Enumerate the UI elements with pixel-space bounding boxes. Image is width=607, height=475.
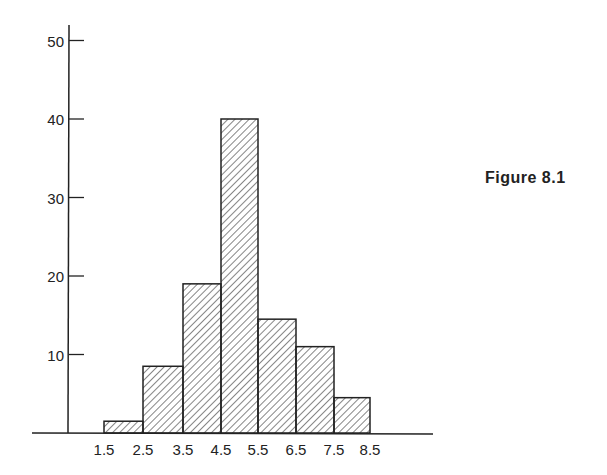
figure-caption: Figure 8.1: [485, 169, 566, 187]
x-tick-label: 3.5: [173, 441, 194, 458]
y-axis-ticks: 1020304050: [47, 33, 84, 364]
histogram-bars: [104, 119, 370, 433]
y-tick-label: 40: [47, 111, 64, 128]
x-axis: [32, 433, 433, 434]
x-tick-label: 1.5: [94, 441, 115, 458]
histogram-bar: [258, 319, 296, 433]
x-axis-tick-labels: 1.52.53.54.55.56.57.58.5: [94, 441, 381, 458]
histogram-bar: [104, 421, 143, 433]
histogram-chart: 1020304050 1.52.53.54.55.56.57.58.5: [0, 0, 607, 475]
y-tick-label: 20: [47, 268, 64, 285]
y-axis: [68, 25, 69, 433]
x-tick-label: 8.5: [360, 441, 381, 458]
x-tick-label: 2.5: [133, 441, 154, 458]
y-tick-label: 10: [47, 347, 64, 364]
histogram-bar: [296, 347, 334, 433]
y-tick-label: 50: [47, 33, 64, 50]
y-tick-label: 30: [47, 190, 64, 207]
histogram-bar: [143, 366, 183, 433]
x-tick-label: 6.5: [286, 441, 307, 458]
x-tick-label: 5.5: [248, 441, 269, 458]
histogram-bar: [183, 284, 221, 433]
histogram-bar: [334, 398, 370, 433]
histogram-bar: [221, 119, 258, 433]
x-tick-label: 7.5: [324, 441, 345, 458]
x-tick-label: 4.5: [211, 441, 232, 458]
